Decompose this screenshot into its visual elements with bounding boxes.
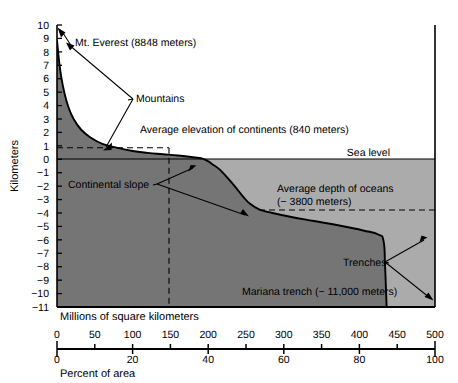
annotation-average-depth-of-oceans-value: (− 3800 meters) bbox=[277, 196, 351, 208]
x-axis-primary-labels: 050100150200250300350400450500 bbox=[54, 329, 444, 341]
annotation-average-elevation-of-continents: Average elevation of continents (840 met… bbox=[140, 124, 349, 136]
y-axis-tick-label: 2 bbox=[43, 127, 49, 139]
chart-svg: 109876543210−1−2−3−4−5−6−7−8−9−10−11 Kil… bbox=[0, 0, 458, 383]
x-axis-primary-tick-label: 50 bbox=[89, 329, 101, 341]
y-axis-tick-label: −10 bbox=[31, 288, 49, 300]
x-axis-secondary-ticks bbox=[57, 349, 435, 357]
y-axis-tick-label: 1 bbox=[43, 141, 49, 153]
annotation-mountains: Mountains bbox=[136, 93, 184, 105]
y-axis-tick-label: −11 bbox=[32, 302, 49, 314]
y-axis-tick-label: 3 bbox=[43, 114, 49, 126]
x-axis-secondary-tick-label: 20 bbox=[127, 354, 139, 366]
annotation-trenches: Trenches bbox=[343, 257, 386, 269]
y-axis-tick-label: 7 bbox=[43, 60, 49, 72]
x-axis-title-primary: Millions of square kilometers bbox=[60, 311, 199, 323]
annotation-sea-level: Sea level bbox=[347, 147, 390, 159]
x-axis-primary-tick-label: 250 bbox=[237, 329, 255, 341]
x-axis-primary-tick-label: 200 bbox=[199, 329, 217, 341]
x-axis-secondary-tick-label: 0 bbox=[54, 354, 60, 366]
x-axis-primary-ticks bbox=[57, 341, 435, 349]
y-axis-tick-label: 6 bbox=[43, 73, 49, 85]
y-axis-tick-label: −2 bbox=[37, 181, 49, 193]
y-axis-title: Kilometers bbox=[9, 140, 21, 192]
y-axis-tick-label: −5 bbox=[37, 221, 49, 233]
y-axis-tick-label: −8 bbox=[37, 261, 49, 273]
x-axis-primary-tick-label: 350 bbox=[313, 329, 331, 341]
y-axis-tick-label: −3 bbox=[37, 194, 49, 206]
annotation-mariana-trench: Mariana trench (− 11,000 meters) bbox=[242, 286, 397, 298]
y-axis-tick-label: −1 bbox=[37, 167, 49, 179]
annotation-mt-everest: Mt. Everest (8848 meters) bbox=[75, 37, 196, 49]
x-axis-primary-tick-label: 450 bbox=[388, 329, 406, 341]
y-axis-tick-label: −4 bbox=[37, 208, 49, 220]
y-axis-tick-label: −9 bbox=[37, 275, 49, 287]
x-axis-primary-tick-label: 0 bbox=[54, 329, 60, 341]
dual-scale-ruler bbox=[57, 341, 435, 357]
annotation-continental-slope: Continental slope bbox=[68, 179, 149, 191]
annotation-average-depth-of-oceans: Average depth of oceans bbox=[277, 183, 394, 195]
y-axis-tick-label: 5 bbox=[43, 87, 49, 99]
x-axis-secondary-tick-label: 80 bbox=[354, 354, 366, 366]
y-axis-tick-label: −6 bbox=[37, 235, 49, 247]
y-axis-tick-label: −7 bbox=[37, 248, 49, 260]
x-axis-primary-tick-label: 150 bbox=[162, 329, 180, 341]
x-axis-primary-tick-label: 400 bbox=[351, 329, 369, 341]
y-axis-tick-label: 9 bbox=[43, 33, 49, 45]
x-axis-primary-tick-label: 300 bbox=[275, 329, 293, 341]
x-axis-primary-tick-label: 100 bbox=[124, 329, 142, 341]
y-axis-tick-label: 10 bbox=[37, 20, 49, 32]
y-axis-tick-label: 0 bbox=[43, 154, 49, 166]
x-axis-secondary-tick-label: 40 bbox=[202, 354, 214, 366]
x-axis-primary-tick-label: 500 bbox=[426, 329, 444, 341]
y-axis-tick-label: 4 bbox=[43, 100, 49, 112]
y-axis-tick-label: 8 bbox=[43, 47, 49, 59]
x-axis-secondary-tick-label: 100 bbox=[426, 354, 444, 366]
x-axis-secondary-labels: 020406080100 bbox=[54, 354, 444, 366]
hypsometric-curve-figure: 109876543210−1−2−3−4−5−6−7−8−9−10−11 Kil… bbox=[0, 0, 458, 383]
x-axis-title-secondary: Percent of area bbox=[60, 368, 136, 380]
x-axis-secondary-tick-label: 60 bbox=[278, 354, 290, 366]
